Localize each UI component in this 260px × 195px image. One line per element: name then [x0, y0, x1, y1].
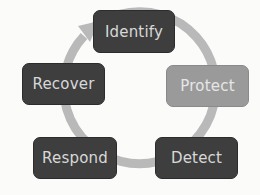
node-label: Protect — [180, 77, 234, 95]
node-label: Detect — [171, 149, 222, 167]
node-identify: Identify — [93, 10, 175, 53]
node-label: Identify — [105, 23, 163, 41]
node-label: Respond — [42, 149, 108, 167]
node-label: Recover — [32, 75, 94, 93]
node-detect: Detect — [155, 137, 238, 179]
node-respond: Respond — [33, 137, 117, 179]
node-protect: Protect — [166, 65, 249, 107]
node-recover: Recover — [22, 63, 105, 105]
